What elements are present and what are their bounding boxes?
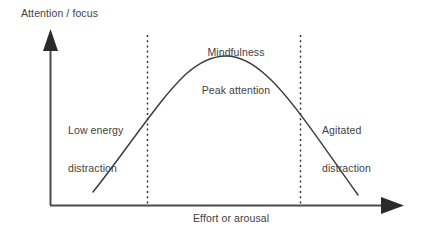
peak-annotation: Mindfulness Peak attention bbox=[186, 21, 286, 121]
x-axis-arrowhead bbox=[381, 197, 404, 214]
right-zone-annotation-line-2: distraction bbox=[322, 162, 371, 175]
y-axis-label: Attention / focus bbox=[21, 7, 98, 20]
right-zone-annotation: Agitated distraction bbox=[322, 99, 371, 199]
left-zone-annotation: Low energy distraction bbox=[68, 99, 123, 199]
peak-annotation-line-1: Mindfulness bbox=[186, 46, 286, 59]
right-zone-annotation-line-1: Agitated bbox=[322, 124, 371, 137]
peak-annotation-line-2: Peak attention bbox=[186, 84, 286, 97]
x-axis-label: Effort or arousal bbox=[193, 212, 269, 225]
arousal-attention-chart: Attention / focus Effort or arousal Mind… bbox=[0, 0, 432, 237]
left-zone-annotation-line-2: distraction bbox=[68, 162, 123, 175]
y-axis-arrowhead bbox=[43, 29, 58, 51]
left-zone-annotation-line-1: Low energy bbox=[68, 124, 123, 137]
